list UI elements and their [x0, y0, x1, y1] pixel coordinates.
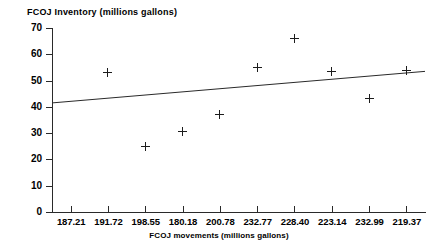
y-tick: 0 — [46, 212, 52, 213]
x-tick: 187.21 — [71, 206, 72, 212]
x-tick: 232.99 — [369, 206, 370, 212]
y-axis-line — [52, 28, 53, 213]
x-tick: 198.55 — [145, 206, 146, 212]
y-tick-label: 50 — [31, 75, 42, 86]
x-tick-label: 198.55 — [132, 216, 160, 227]
y-tick: 30 — [46, 133, 52, 134]
x-axis-line — [52, 212, 426, 213]
x-tick-mark — [108, 206, 109, 212]
x-tick: 219.37 — [406, 206, 407, 212]
x-tick-label: 228.40 — [281, 216, 309, 227]
x-tick-mark — [406, 206, 407, 212]
data-point — [141, 142, 150, 151]
y-tick: 20 — [46, 159, 52, 160]
y-tick: 70 — [46, 28, 52, 29]
x-tick: 180.18 — [183, 206, 184, 212]
y-tick: 60 — [46, 54, 52, 55]
y-tick-label: 30 — [31, 127, 42, 138]
y-tick-mark — [46, 186, 52, 187]
y-tick-mark — [46, 54, 52, 55]
y-tick-mark — [46, 159, 52, 160]
data-point — [253, 63, 262, 72]
y-tick: 50 — [46, 81, 52, 82]
data-point — [215, 110, 224, 119]
x-tick: 228.40 — [294, 206, 295, 212]
x-tick-mark — [369, 206, 370, 212]
y-tick-mark — [46, 28, 52, 29]
x-tick-label: 200.78 — [206, 216, 234, 227]
x-tick-label: 232.77 — [243, 216, 271, 227]
y-tick-label: 0 — [36, 206, 42, 217]
y-tick-mark — [46, 107, 52, 108]
y-tick-mark — [46, 133, 52, 134]
x-tick: 232.77 — [257, 206, 258, 212]
scatter-chart: FCOJ Inventory (millions gallons) 706050… — [0, 0, 438, 249]
x-tick-label: 232.99 — [355, 216, 383, 227]
x-tick-mark — [332, 206, 333, 212]
x-tick: 191.72 — [108, 206, 109, 212]
data-point — [327, 67, 336, 76]
x-tick-label: 223.14 — [318, 216, 346, 227]
y-tick-label: 70 — [31, 22, 42, 33]
x-tick-mark — [294, 206, 295, 212]
data-point — [402, 66, 411, 75]
y-tick-label: 10 — [31, 180, 42, 191]
chart-title: FCOJ Inventory (millions gallons) — [27, 7, 177, 17]
data-point — [103, 68, 112, 77]
y-tick-label: 40 — [31, 101, 42, 112]
x-tick-mark — [183, 206, 184, 212]
y-tick-label: 20 — [31, 153, 42, 164]
x-tick-label: 180.18 — [169, 216, 197, 227]
x-tick-label: 187.21 — [57, 216, 85, 227]
x-tick: 200.78 — [220, 206, 221, 212]
y-tick: 40 — [46, 107, 52, 108]
data-point — [178, 127, 187, 136]
x-axis-title: FCOJ movements (millions gallons) — [0, 231, 438, 240]
x-tick-mark — [220, 206, 221, 212]
data-point — [290, 34, 299, 43]
data-point — [365, 94, 374, 103]
x-tick-label: 191.72 — [94, 216, 122, 227]
x-tick-mark — [71, 206, 72, 212]
y-tick: 10 — [46, 186, 52, 187]
x-tick: 223.14 — [332, 206, 333, 212]
x-tick-mark — [145, 206, 146, 212]
y-tick-label: 60 — [31, 48, 42, 59]
x-tick-label: 219.37 — [393, 216, 421, 227]
x-tick-mark — [257, 206, 258, 212]
y-tick-mark — [46, 81, 52, 82]
y-tick-mark — [46, 212, 52, 213]
